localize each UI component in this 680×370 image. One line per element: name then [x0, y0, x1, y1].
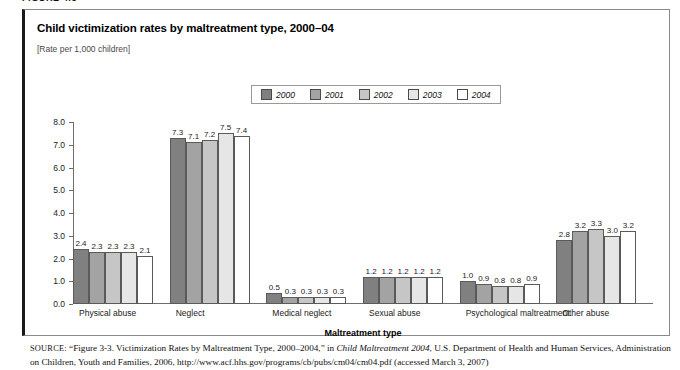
bar[interactable] — [588, 229, 604, 304]
bar-value-label: 7.5 — [220, 123, 231, 132]
bar-value-label: 1.2 — [413, 267, 424, 276]
legend-swatch-2002 — [359, 89, 370, 100]
bar[interactable] — [572, 231, 588, 304]
legend-label-2002: 2002 — [374, 90, 393, 100]
bar[interactable] — [604, 236, 620, 304]
bar[interactable] — [556, 240, 572, 304]
bar-value-label: 0.3 — [333, 287, 344, 296]
bar[interactable] — [137, 256, 153, 304]
bar-slot: 0.5 — [266, 122, 282, 304]
bar-groups: 2.42.32.32.32.1Physical abuse7.37.17.27.… — [73, 122, 653, 304]
chart-legend: 20002001200220032004 — [251, 85, 501, 104]
bar-group: 7.37.17.27.57.4Neglect — [170, 122, 267, 304]
y-tick-label: 5.0 — [33, 185, 65, 195]
bar-value-label: 7.1 — [188, 132, 199, 141]
bar-value-label: 7.2 — [204, 130, 215, 139]
bar-value-label: 2.8 — [559, 230, 570, 239]
bar[interactable] — [266, 293, 282, 304]
bar-slot: 0.9 — [476, 122, 492, 304]
legend-item-2002[interactable]: 2002 — [359, 89, 393, 100]
bar-value-label: 3.2 — [575, 221, 586, 230]
bar-value-label: 7.3 — [172, 128, 183, 137]
bar[interactable] — [460, 281, 476, 304]
bar[interactable] — [314, 297, 330, 304]
bar-value-label: 1.2 — [381, 267, 392, 276]
bar-value-label: 2.3 — [107, 242, 118, 251]
bar-slot: 0.3 — [298, 122, 314, 304]
bar[interactable] — [186, 142, 202, 304]
source-label: SOURCE: — [30, 344, 67, 353]
bar[interactable] — [379, 277, 395, 304]
y-tick-label: 1.0 — [33, 276, 65, 286]
legend-swatch-2004 — [457, 89, 468, 100]
bar-group: 2.42.32.32.32.1Physical abuse — [73, 122, 170, 304]
bar-slot: 2.1 — [137, 122, 153, 304]
legend-item-2003[interactable]: 2003 — [408, 89, 442, 100]
category-label: Sexual abuse — [363, 308, 460, 318]
bar[interactable] — [476, 284, 492, 304]
bar[interactable] — [170, 138, 186, 304]
legend-item-2000[interactable]: 2000 — [261, 89, 295, 100]
bar[interactable] — [395, 277, 411, 304]
y-tick-label: 8.0 — [33, 117, 65, 127]
bar-slot: 0.3 — [314, 122, 330, 304]
chart-title: Child victimization rates by maltreatmen… — [37, 22, 334, 34]
bar[interactable] — [234, 136, 250, 304]
bar-slot: 0.3 — [282, 122, 298, 304]
bar[interactable] — [620, 231, 636, 304]
bar-slot: 2.3 — [121, 122, 137, 304]
bar[interactable] — [121, 252, 137, 304]
category-label: Medical neglect — [266, 308, 363, 318]
bar-value-label: 3.3 — [591, 219, 602, 228]
category-label-text: Physical abuse — [79, 308, 136, 318]
bar[interactable] — [282, 297, 298, 304]
bar-slot: 2.4 — [73, 122, 89, 304]
bar[interactable] — [218, 133, 234, 304]
legend-label-2003: 2003 — [423, 90, 442, 100]
category-label: Psychological maltreatment — [460, 308, 557, 318]
bar-slot: 7.2 — [202, 122, 218, 304]
bar-value-label: 1.2 — [397, 267, 408, 276]
bar-value-label: 0.8 — [510, 276, 521, 285]
bar-slot: 3.3 — [588, 122, 604, 304]
bar-slot: 1.0 — [460, 122, 476, 304]
bar[interactable] — [89, 252, 105, 304]
bar[interactable] — [298, 297, 314, 304]
bar-value-label: 1.2 — [429, 267, 440, 276]
bar-group: 1.21.21.21.21.2Sexual abuse — [363, 122, 460, 304]
bar[interactable] — [508, 286, 524, 304]
category-label: Other abuse — [556, 308, 653, 318]
bar-slot: 3.2 — [620, 122, 636, 304]
bar-value-label: 2.3 — [123, 242, 134, 251]
legend-item-2004[interactable]: 2004 — [457, 89, 491, 100]
bar[interactable] — [411, 277, 427, 304]
bar-value-label: 0.8 — [494, 276, 505, 285]
bar-value-label: 0.5 — [269, 283, 280, 292]
bar[interactable] — [363, 277, 379, 304]
bar[interactable] — [524, 284, 540, 304]
bar-slot: 0.8 — [492, 122, 508, 304]
bar-value-label: 1.2 — [365, 267, 376, 276]
bar[interactable] — [492, 286, 508, 304]
y-tick-label: 3.0 — [33, 231, 65, 241]
legend-item-2001[interactable]: 2001 — [310, 89, 344, 100]
y-tick-mark — [69, 304, 73, 305]
bar[interactable] — [202, 140, 218, 304]
category-label-text: Neglect — [176, 308, 205, 318]
bar[interactable] — [73, 249, 89, 304]
y-tick-label: 6.0 — [33, 163, 65, 173]
bar-slot: 3.0 — [604, 122, 620, 304]
source-note: SOURCE: “Figure 3-3. Victimization Rates… — [30, 342, 672, 368]
source-text-part1: “Figure 3-3. Victimization Rates by Malt… — [67, 343, 337, 353]
bar-slot: 7.4 — [234, 122, 250, 304]
bar-slot: 1.2 — [411, 122, 427, 304]
category-label-text: Other abuse — [562, 308, 609, 318]
category-label-text: Sexual abuse — [369, 308, 421, 318]
bar[interactable] — [427, 277, 443, 304]
bar-value-label: 0.3 — [285, 287, 296, 296]
bar-slot: 1.2 — [395, 122, 411, 304]
bar-slot: 0.3 — [330, 122, 346, 304]
bar[interactable] — [330, 297, 346, 304]
bar[interactable] — [105, 252, 121, 304]
bar-slot: 7.1 — [186, 122, 202, 304]
